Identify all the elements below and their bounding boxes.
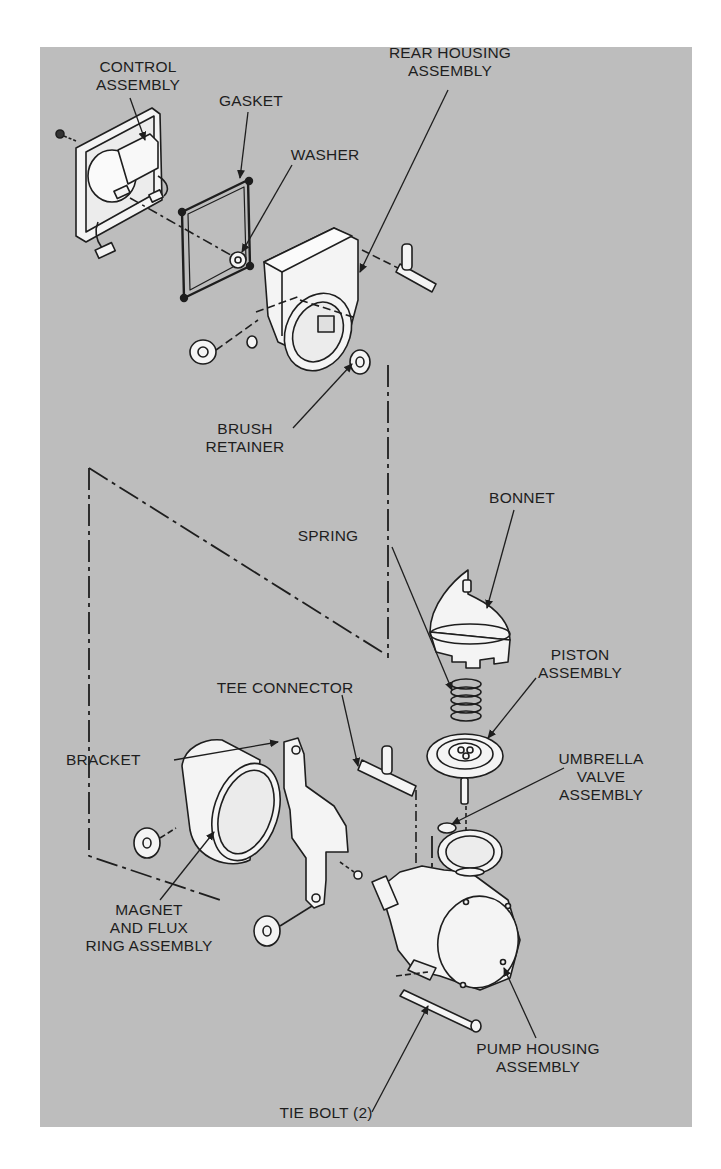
label-brush-retainer: BRUSH RETAINER [200, 420, 290, 456]
label-bonnet: BONNET [484, 489, 560, 507]
label-washer: WASHER [285, 146, 365, 164]
bonnet-part [430, 570, 510, 668]
tee-connector-part [358, 746, 416, 880]
spring-part [451, 679, 481, 721]
pump-housing-part [372, 830, 525, 994]
label-gasket: GASKET [216, 92, 286, 110]
piston-assembly-part [427, 734, 503, 804]
control-assembly-part [56, 108, 167, 258]
label-control-assembly: CONTROL ASSEMBLY [84, 58, 192, 94]
magnet-flux-ring-part [182, 740, 292, 870]
label-umbrella-valve-assembly: UMBRELLA VALVE ASSEMBLY [555, 750, 647, 804]
label-tie-bolt: TIE BOLT (2) [268, 1104, 384, 1122]
label-magnet-and-flux-ring-assembly: MAGNET AND FLUX RING ASSEMBLY [74, 901, 224, 955]
umbrella-valve-part [438, 823, 456, 833]
gasket-part [179, 178, 253, 301]
label-piston-assembly: PISTON ASSEMBLY [534, 646, 626, 682]
exploded-view-drawing [0, 0, 721, 1169]
rear-clip-part [247, 336, 257, 348]
label-pump-housing-assembly: PUMP HOUSING ASSEMBLY [460, 1040, 616, 1076]
bracket-part [284, 738, 348, 908]
label-bracket: BRACKET [66, 751, 176, 769]
label-tee-connector: TEE CONNECTOR [210, 679, 360, 697]
label-spring: SPRING [288, 527, 368, 545]
label-rear-housing-assembly: REAR HOUSING ASSEMBLY [380, 44, 520, 80]
rear-housing-assembly-part [264, 228, 364, 382]
bracket-screw-part [340, 862, 362, 879]
